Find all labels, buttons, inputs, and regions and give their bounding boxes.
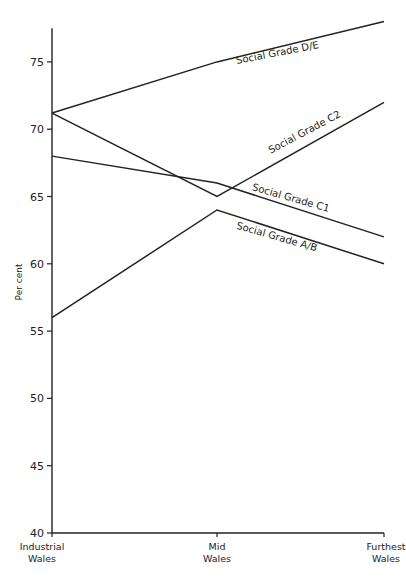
y-tick-label: 45 (30, 460, 44, 473)
series-line-social-grade-d-e (52, 22, 384, 114)
axes: 4045505560657075IndustrialWalesMidWalesF… (14, 28, 406, 564)
line-chart: 4045505560657075IndustrialWalesMidWalesF… (0, 0, 406, 585)
x-category-label: Wales (203, 553, 231, 564)
y-tick-label: 65 (30, 191, 44, 204)
y-tick-label: 40 (30, 527, 44, 540)
x-category-label: Wales (28, 553, 56, 564)
x-category-label: Furthest (366, 541, 405, 552)
x-category-label: Industrial (20, 541, 65, 552)
y-axis-title: Per cent (14, 263, 24, 300)
x-category-label: Wales (372, 553, 400, 564)
series-line-social-grade-a-b (52, 210, 384, 318)
y-tick-label: 50 (30, 392, 44, 405)
series-label: Social Grade D/E (235, 39, 319, 66)
y-tick-label: 70 (30, 123, 44, 136)
y-tick-label: 55 (30, 325, 44, 338)
series-lines (52, 22, 384, 318)
y-tick-label: 60 (30, 258, 44, 271)
series-label: Social Grade A/B (235, 220, 318, 254)
x-category-label: Mid (209, 541, 226, 552)
y-tick-label: 75 (30, 56, 44, 69)
